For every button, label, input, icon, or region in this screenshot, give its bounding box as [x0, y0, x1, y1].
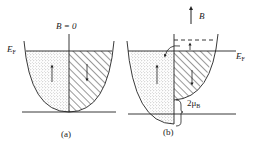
fermi-label-b: EF — [236, 52, 245, 62]
pauli-paramagnetism-diagram — [0, 0, 255, 147]
fermi-label-a-sub: F — [13, 49, 16, 55]
splitting-label-b: 2μB — [187, 99, 200, 109]
fermi-label-b-sub: F — [242, 56, 245, 62]
spin-up-region-b — [130, 51, 174, 124]
splitting-label-sub: B — [196, 103, 200, 109]
field-label-a: B = 0 — [56, 22, 77, 31]
panel-b — [127, 8, 236, 126]
caption-a: (a) — [61, 130, 71, 139]
panel-a — [22, 34, 116, 112]
caption-b: (b) — [163, 128, 174, 137]
fermi-label-a: EF — [7, 45, 16, 55]
spin-down-region-b — [174, 51, 213, 100]
field-label-b: B — [199, 12, 205, 21]
splitting-brace-b — [176, 100, 183, 126]
splitting-label-main: 2μ — [187, 98, 196, 108]
